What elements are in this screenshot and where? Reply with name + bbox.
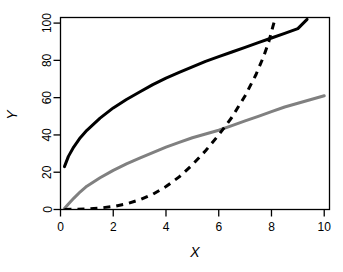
x-axis-title: X — [189, 244, 200, 260]
x-tick-label: 6 — [215, 220, 222, 234]
y-tick-label: 100 — [41, 13, 55, 33]
y-tick-label: 80 — [41, 53, 55, 67]
y-tick-label: 20 — [41, 165, 55, 179]
x-tick-label: 0 — [57, 220, 64, 234]
y-tick-label: 60 — [41, 91, 55, 105]
scatter-line-plot: 0246810 020406080100 X Y — [0, 0, 343, 272]
y-tick-label: 40 — [41, 128, 55, 142]
chart-page: 0246810 020406080100 X Y — [0, 0, 343, 272]
x-tick-label: 8 — [268, 220, 275, 234]
x-tick-label: 2 — [110, 220, 117, 234]
x-tick-label: 10 — [318, 220, 332, 234]
x-tick-label: 4 — [163, 220, 170, 234]
y-tick-label: 0 — [41, 206, 55, 213]
